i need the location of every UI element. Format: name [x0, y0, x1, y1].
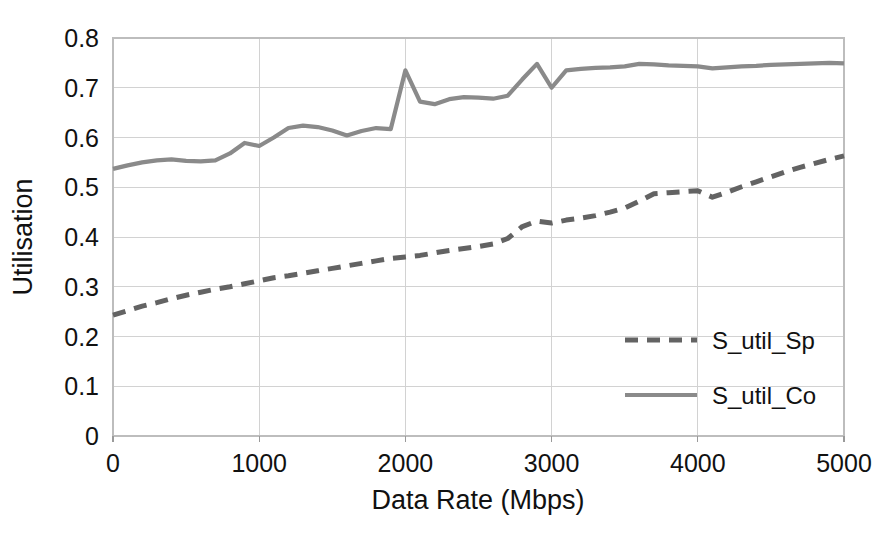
x-tick-label: 1000 [231, 449, 287, 477]
x-tick-label: 0 [106, 449, 120, 477]
y-tick-label: 0.2 [64, 323, 99, 351]
x-tick-label: 5000 [816, 449, 872, 477]
y-tick-label: 0.8 [64, 24, 99, 52]
x-tick-label: 3000 [524, 449, 580, 477]
y-tick-label: 0.1 [64, 372, 99, 400]
y-tick-label: 0.5 [64, 173, 99, 201]
y-tick-label: 0 [85, 422, 99, 450]
y-tick-label: 0.7 [64, 74, 99, 102]
x-tick-label: 2000 [378, 449, 434, 477]
y-axis-title: Utilisation [8, 178, 38, 295]
x-tick-label: 4000 [670, 449, 726, 477]
legend-label-s_util_co: S_util_Co [712, 382, 816, 409]
chart-canvas: 010002000300040005000 00.10.20.30.40.50.… [0, 0, 895, 539]
utilisation-vs-data-rate-chart: 010002000300040005000 00.10.20.30.40.50.… [0, 0, 895, 539]
x-axis-tick-labels: 010002000300040005000 [106, 449, 872, 477]
legend-label-s_util_sp: S_util_Sp [712, 327, 815, 354]
y-tick-label: 0.4 [64, 223, 99, 251]
x-axis-title: Data Rate (Mbps) [371, 485, 584, 515]
y-tick-label: 0.6 [64, 124, 99, 152]
y-tick-label: 0.3 [64, 273, 99, 301]
axis-tick-marks [113, 436, 844, 442]
y-axis-tick-labels: 00.10.20.30.40.50.60.70.8 [64, 24, 99, 450]
